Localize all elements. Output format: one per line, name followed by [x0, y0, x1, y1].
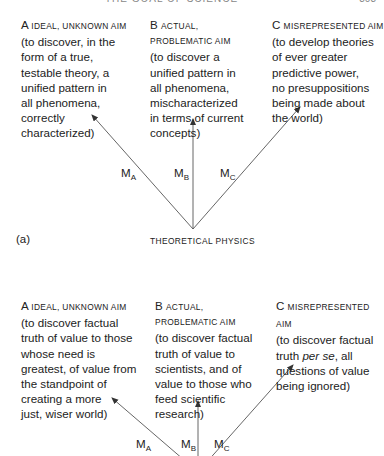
method-label-c: MC [220, 166, 235, 182]
aim-description: (to discover factual truth of value to s… [155, 330, 252, 421]
aim-b-top: B ACTUAL, PROBLEMATIC AIM (to discover a… [150, 17, 243, 141]
aim-description: (to develop theories of ever greater pre… [272, 34, 383, 125]
aim-description: (to discover a unified pattern in all ph… [150, 49, 243, 140]
method-label-b: MB [174, 166, 189, 182]
aim-c-top: C MISREPRESENTED AIM (to develop theorie… [272, 17, 383, 125]
method-label-b: MB [181, 437, 196, 453]
aim-description: (to discover factual truth per se, all q… [276, 332, 384, 393]
aim-heading: A IDEAL, UNKNOWN AIM [21, 17, 127, 34]
aim-heading-cont: PROBLEMATIC AIM [150, 34, 243, 49]
aim-b-bottom: B ACTUAL, PROBLEMATIC AIM (to discover f… [155, 298, 252, 422]
aim-a-bottom: A IDEAL, UNKNOWN AIM (to discover factua… [21, 298, 136, 422]
method-label-a: MA [121, 166, 136, 182]
aim-heading: B ACTUAL, [150, 17, 243, 34]
method-label-a: MA [136, 437, 151, 453]
aim-c-bottom: C MISREPRESENTED AIM (to discover factua… [276, 298, 384, 393]
aim-heading: C MISREPRESENTED AIM [276, 298, 384, 332]
base-label: THEORETICAL PHYSICS [150, 236, 255, 246]
aim-description: (to discover factual truth of value to t… [21, 315, 136, 421]
aim-description: (to discover, in the form of a true, tes… [21, 34, 127, 140]
aim-heading-cont: PROBLEMATIC AIM [155, 315, 252, 330]
aim-heading: C MISREPRESENTED AIM [272, 17, 383, 34]
aim-heading: B ACTUAL, [155, 298, 252, 315]
method-label-c: MC [214, 437, 229, 453]
panel-label-a: (a) [16, 233, 30, 245]
aim-heading: A IDEAL, UNKNOWN AIM [21, 298, 136, 315]
aim-a-top: A IDEAL, UNKNOWN AIM (to discover, in th… [21, 17, 127, 141]
